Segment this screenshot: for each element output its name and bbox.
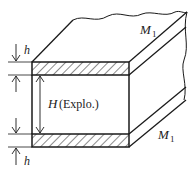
bottom-metal-plate — [32, 134, 129, 147]
top-left-diagonal — [32, 20, 73, 62]
top-layer-diagonal — [129, 27, 186, 75]
top-metal-plate — [32, 62, 129, 75]
explosive-layer-diagram: h h H (Explo.) M 1 M 1 — [0, 0, 195, 172]
explosive-label: (Explo.) — [59, 97, 99, 111]
top-right-diagonal — [129, 12, 187, 62]
M1-bottom-label: M — [157, 127, 170, 142]
h-top-arrow-icon — [12, 44, 20, 61]
top-wavy-edge — [73, 11, 187, 20]
right-wavy-edge — [183, 12, 187, 100]
h-bottom-label: h — [24, 154, 30, 168]
M1-top-subscript: 1 — [152, 29, 157, 39]
H-dimension-arrow-icon — [36, 76, 44, 133]
H-label: H — [47, 96, 58, 111]
H-outer-arrows-icon — [12, 76, 20, 133]
M1-top-label: M — [139, 22, 152, 37]
M1-bottom-subscript: 1 — [170, 134, 175, 144]
h-top-label: h — [24, 43, 30, 57]
h-bottom-arrow-icon — [12, 148, 20, 165]
